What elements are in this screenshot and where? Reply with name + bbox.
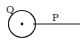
diagram-canvas: Q P: [0, 0, 81, 40]
label-q: Q: [6, 4, 14, 15]
label-p: P: [52, 12, 59, 23]
circle-center-dot: [21, 23, 24, 26]
